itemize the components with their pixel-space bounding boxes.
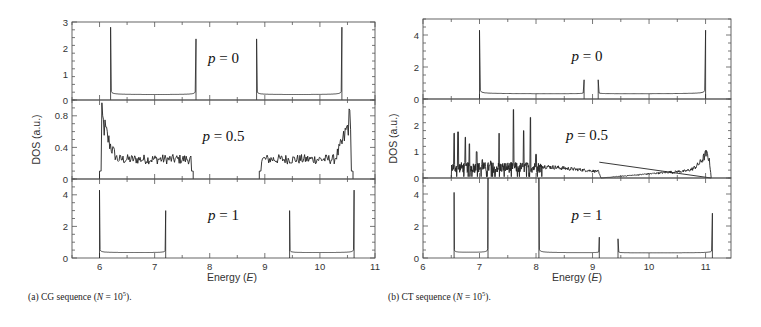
- y-tick-label: 0.4: [55, 142, 68, 153]
- y-tick-label: 0: [63, 253, 68, 264]
- y-tick-label: 2: [414, 62, 419, 73]
- x-axis-label: Energy (E): [207, 271, 257, 283]
- x-tick-label: 6: [97, 261, 102, 272]
- y-tick-label: 3: [63, 17, 68, 28]
- x-tick-label: 10: [644, 261, 655, 272]
- x-tick-label: 9: [262, 261, 267, 272]
- panel-label: p = 0: [207, 50, 239, 66]
- y-tick-label: 1: [414, 146, 419, 157]
- y-tick-label: 1: [63, 69, 68, 80]
- y-tick-label: 0: [63, 174, 68, 185]
- y-tick-label: 4: [414, 189, 419, 200]
- x-axis-label: Energy (E): [552, 271, 602, 283]
- panel-label: p = 0: [571, 48, 603, 64]
- y-tick-label: 2: [63, 43, 68, 54]
- panel-b-1: 012p = 0.5: [414, 99, 731, 184]
- y-tick-label: 2: [414, 221, 419, 232]
- y-tick-label: 4: [63, 189, 68, 200]
- caption-a-prefix: (a) CG sequence (: [28, 292, 97, 302]
- panel-label: p = 0.5: [201, 128, 244, 144]
- caption-a-suffix: ).: [126, 292, 132, 302]
- dos-curve: [451, 110, 711, 179]
- y-axis-label: DOS (a.u.): [30, 114, 42, 164]
- y-tick-label: 0: [414, 253, 419, 264]
- y-tick-label: 2: [414, 120, 419, 131]
- caption-b-suffix: ).: [485, 292, 491, 302]
- x-tick-label: 8: [533, 261, 538, 272]
- chart-b-ct-sequence: 024p = 0012p = 0.5024p = 167891011Energy…: [387, 19, 731, 283]
- dos-figure: 0123p = 000.40.8p = 0.5024p = 167891011E…: [0, 0, 761, 327]
- dos-curve: [100, 190, 355, 258]
- y-tick-label: 4: [414, 30, 419, 41]
- x-tick-label: 10: [315, 261, 326, 272]
- x-tick-label: 7: [477, 261, 482, 272]
- caption-a-eq: = 10: [103, 292, 123, 302]
- panel-label: p = 1: [571, 207, 603, 223]
- y-tick-label: 2: [63, 221, 68, 232]
- x-tick-label: 11: [370, 261, 380, 272]
- panel-label: p = 0.5: [565, 127, 608, 143]
- x-tick-label: 6: [420, 261, 425, 272]
- x-tick-label: 11: [701, 261, 711, 272]
- panel-b-0: 024p = 0: [414, 19, 731, 105]
- panel-a-2: 024p = 1: [63, 179, 375, 264]
- caption-b-eq: = 10: [463, 292, 483, 302]
- panel-a-0: 0123p = 0: [63, 17, 375, 106]
- caption-b-prefix: (b) CT sequence (: [388, 292, 456, 302]
- y-tick-label: 0: [63, 95, 68, 106]
- y-axis-label: DOS (a.u.): [387, 113, 399, 163]
- panel-b-2: 024p = 1: [414, 178, 731, 264]
- x-tick-label: 7: [152, 261, 157, 272]
- caption-b: (b) CT sequence (N = 105).: [388, 290, 491, 302]
- caption-a: (a) CG sequence (N = 105).: [28, 290, 132, 302]
- y-tick-label: 0.8: [55, 110, 68, 121]
- panel-label: p = 1: [207, 207, 239, 223]
- dos-curve: [480, 30, 706, 99]
- chart-a-cg-sequence: 0123p = 000.40.8p = 0.5024p = 167891011E…: [30, 17, 380, 284]
- y-tick-label: 0: [414, 173, 419, 184]
- panel-a-1: 00.40.8p = 0.5: [55, 100, 375, 185]
- y-tick-label: 0: [414, 94, 419, 105]
